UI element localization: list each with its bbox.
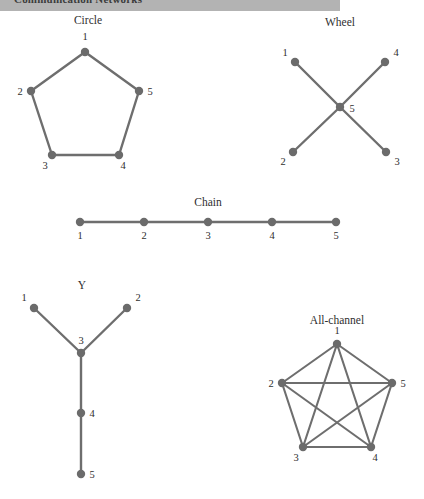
node-wheel-2 [289, 148, 297, 156]
node-label-y-3: 3 [78, 335, 83, 346]
edge-4-5 [119, 91, 139, 155]
node-circle-5 [135, 87, 143, 95]
edge-2-4 [282, 383, 371, 447]
node-wheel-1 [291, 58, 299, 66]
node-circle-2 [27, 87, 35, 95]
edge-2-3 [81, 308, 127, 353]
node-label-y-5: 5 [89, 469, 94, 480]
node-all-channel-1 [333, 340, 341, 348]
node-all-channel-2 [278, 379, 286, 387]
node-y-3 [77, 349, 85, 357]
node-wheel-5 [336, 103, 344, 111]
node-label-circle-1: 1 [82, 31, 87, 42]
node-y-5 [77, 470, 85, 478]
node-label-chain-4: 4 [269, 230, 275, 241]
node-chain-4 [268, 218, 276, 226]
edge-3-5 [303, 383, 392, 447]
node-label-y-1: 1 [21, 292, 26, 303]
network-title-wheel: Wheel [325, 16, 355, 28]
node-label-y-2: 2 [135, 292, 140, 303]
edge-2-5 [293, 107, 340, 152]
node-label-all-channel-5: 5 [400, 378, 405, 389]
node-circle-3 [48, 151, 56, 159]
edge-group-y [34, 308, 127, 474]
node-label-wheel-1: 1 [282, 47, 287, 58]
node-chain-2 [140, 218, 148, 226]
node-label-chain-1: 1 [77, 230, 82, 241]
node-label-chain-2: 2 [141, 230, 146, 241]
node-y-1 [30, 304, 38, 312]
node-label-chain-5: 5 [333, 230, 338, 241]
edge-group-all-channel [282, 344, 392, 447]
edge-1-3 [303, 344, 337, 447]
node-label-wheel-3: 3 [394, 156, 399, 167]
edge-1-2 [282, 344, 337, 383]
node-label-circle-3: 3 [42, 160, 47, 171]
communication-networks-diagram: Circle12345Wheel12345Chain12345Y12345All… [0, 0, 424, 499]
network-circle: Circle12345 [17, 14, 152, 171]
edge-5-1 [85, 52, 139, 91]
node-chain-3 [204, 218, 212, 226]
node-chain-1 [76, 218, 84, 226]
node-all-channel-5 [388, 379, 396, 387]
edge-1-2 [31, 52, 85, 91]
edge-2-3 [31, 91, 52, 155]
edge-1-4 [337, 344, 371, 447]
edge-3-5 [340, 107, 386, 152]
node-label-wheel-5: 5 [349, 103, 354, 114]
node-all-channel-3 [299, 443, 307, 451]
node-y-4 [77, 409, 85, 417]
node-circle-1 [81, 48, 89, 56]
node-wheel-3 [382, 148, 390, 156]
figure-page: Communication Networks Circle12345Wheel1… [0, 0, 424, 499]
edge-2-3 [282, 383, 303, 447]
edge-4-5 [371, 383, 392, 447]
network-title-chain: Chain [194, 196, 222, 208]
node-label-wheel-2: 2 [280, 156, 285, 167]
node-label-y-4: 4 [89, 408, 95, 419]
network-title-circle: Circle [74, 14, 102, 26]
edge-group-circle [31, 52, 139, 155]
network-title-y: Y [78, 279, 87, 291]
edge-5-1 [337, 344, 392, 383]
edge-4-5 [340, 62, 385, 107]
network-chain: Chain12345 [76, 196, 340, 241]
node-label-wheel-4: 4 [393, 47, 399, 58]
network-wheel: Wheel12345 [280, 16, 399, 167]
node-all-channel-4 [367, 443, 375, 451]
node-label-circle-4: 4 [120, 160, 126, 171]
node-label-all-channel-4: 4 [372, 452, 378, 463]
node-label-all-channel-1: 1 [334, 325, 339, 336]
node-chain-5 [332, 218, 340, 226]
node-wheel-4 [381, 58, 389, 66]
network-y: Y12345 [21, 279, 140, 480]
edge-1-3 [34, 308, 81, 353]
node-label-all-channel-2: 2 [268, 378, 273, 389]
node-label-chain-3: 3 [205, 230, 210, 241]
network-all-channel: All-channel12345 [268, 314, 405, 463]
node-label-all-channel-3: 3 [293, 452, 298, 463]
node-label-circle-5: 5 [147, 86, 152, 97]
node-circle-4 [115, 151, 123, 159]
node-label-circle-2: 2 [17, 86, 22, 97]
edge-1-5 [295, 62, 340, 107]
node-y-2 [123, 304, 131, 312]
